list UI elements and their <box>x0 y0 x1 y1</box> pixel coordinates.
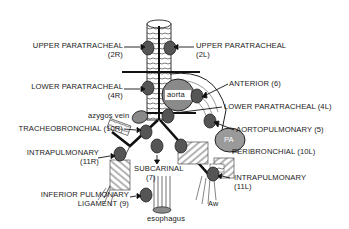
node-11R <box>114 147 126 161</box>
node-9 <box>140 188 152 202</box>
node-11L <box>207 167 219 181</box>
label-7: SUBCARINAL (7) <box>134 165 182 182</box>
pa-label: PA <box>224 136 234 145</box>
label-11R: INTRAPULMONARY (11R) <box>27 149 99 166</box>
node-10L <box>175 139 187 153</box>
esophagus-label: esophagus <box>147 215 185 224</box>
aw-label: Aw <box>208 200 218 209</box>
node-10R <box>140 125 152 139</box>
node-7 <box>151 139 163 153</box>
node-6 <box>191 89 203 103</box>
label-2L: UPPER PARATRACHEAL (2L) <box>196 42 286 59</box>
node-4L <box>162 109 174 123</box>
label-6: ANTERIOR (6) <box>229 80 281 89</box>
lymph-node-diagram: aorta PA azygos vein esophagus Aw UPPER … <box>0 0 349 229</box>
label-10R: TRACHEOBRONCHIAL (10R) <box>19 125 123 134</box>
label-9: INFERIOR PULMONARY LIGAMENT (9) <box>41 191 129 208</box>
aorta-label: aorta <box>167 91 185 100</box>
label-10L: PERIBRONCHIAL (10L) <box>232 148 315 157</box>
label-2R: UPPER PARATRACHEAL (2R) <box>33 42 123 59</box>
azygos-vein-label: azygos vein <box>88 112 129 121</box>
label-4L: LOWER PARATRACHEAL (4L) <box>224 103 332 112</box>
node-5 <box>204 114 216 128</box>
label-5: AORTOPULMONARY (5) <box>236 126 324 135</box>
label-4R: LOWER PARATRACHEAL (4R) <box>31 83 123 100</box>
node-2L <box>164 41 176 55</box>
label-11L: INTRAPULMONARY (11L) <box>234 174 306 191</box>
